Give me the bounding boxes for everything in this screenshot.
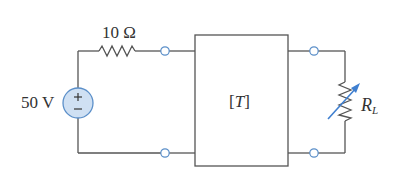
- two-port-var: T: [235, 92, 244, 111]
- bracket-close: ]: [244, 92, 250, 111]
- load-label-main: R: [361, 95, 372, 115]
- source-label: 50 V: [21, 94, 54, 111]
- load-label-sub: L: [372, 104, 378, 116]
- terminal-out-top: [310, 47, 318, 55]
- resistor-label: 10 Ω: [102, 24, 136, 41]
- terminal-out-bottom: [310, 149, 318, 157]
- load-resistor: [339, 82, 351, 121]
- circuit-diagram: [0, 0, 398, 183]
- resistor-10-ohm: [99, 46, 135, 56]
- terminal-in-top: [161, 47, 169, 55]
- two-port-label: [T]: [229, 93, 250, 110]
- load-label: RL: [361, 96, 378, 116]
- voltage-source-icon: [63, 88, 93, 118]
- terminal-in-bottom: [161, 149, 169, 157]
